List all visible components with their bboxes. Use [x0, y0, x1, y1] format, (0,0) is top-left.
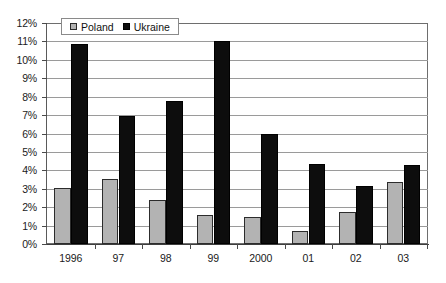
y-axis-tick-label: 2%	[22, 201, 37, 213]
x-axis-tick-mark	[332, 244, 333, 249]
x-axis-label-01: 01	[303, 252, 314, 264]
bar-ukraine-98	[166, 101, 183, 244]
x-axis-label-03: 03	[398, 252, 409, 264]
y-axis-tick-label: 0%	[22, 238, 37, 250]
bar-ukraine-97	[119, 116, 136, 244]
bar-ukraine-99	[214, 41, 231, 244]
bar-poland-97	[102, 179, 119, 244]
bar-group	[332, 24, 380, 244]
bar-group	[285, 24, 333, 244]
bar-ukraine-1996	[71, 44, 88, 244]
x-axis-tick-mark	[237, 244, 238, 249]
x-axis-tick-mark	[285, 244, 286, 249]
y-axis-tick-label: 1%	[22, 220, 37, 232]
y-axis-tick-label: 9%	[22, 72, 37, 84]
y-axis-tick-label: 8%	[22, 91, 37, 103]
x-axis-label-98: 98	[160, 252, 171, 264]
legend-item-ukraine: Ukraine	[123, 21, 170, 33]
y-axis-tick-label: 6%	[22, 128, 37, 140]
y-axis-tick-label: 7%	[22, 109, 37, 121]
legend-label-poland: Poland	[81, 21, 114, 33]
bar-group	[190, 24, 238, 244]
x-axis-tick-mark	[95, 244, 96, 249]
y-axis-tick-label: 12%	[17, 17, 37, 29]
x-axis-tick-mark	[142, 244, 143, 249]
bar-poland-02	[339, 212, 356, 244]
y-axis-tick-label: 5%	[22, 146, 37, 158]
bar-chart: 0%1%2%3%4%5%6%7%8%9%10%11%12% 1996979899…	[0, 0, 446, 283]
bar-group	[380, 24, 428, 244]
chart-legend: Poland Ukraine	[61, 18, 179, 35]
bars-layer	[47, 24, 427, 244]
bar-poland-01	[292, 231, 309, 244]
x-axis-tick-mark	[427, 244, 428, 249]
bar-ukraine-2000	[261, 134, 278, 244]
legend-label-ukraine: Ukraine	[134, 21, 170, 33]
y-axis-ticks: 0%1%2%3%4%5%6%7%8%9%10%11%12%	[0, 0, 46, 283]
x-axis-label-99: 99	[208, 252, 219, 264]
bar-group	[47, 24, 95, 244]
bar-group	[142, 24, 190, 244]
bar-poland-99	[197, 215, 214, 244]
y-axis-tick-label: 11%	[17, 35, 37, 47]
x-axis-label-02: 02	[350, 252, 361, 264]
bar-group	[237, 24, 285, 244]
bar-poland-03	[387, 182, 404, 244]
bar-poland-98	[149, 200, 166, 244]
y-axis-tick-label: 10%	[17, 54, 37, 66]
y-axis-tick-label: 3%	[22, 183, 37, 195]
x-axis-label-1996: 1996	[59, 252, 82, 264]
y-axis-tick-label: 4%	[22, 164, 37, 176]
y-axis-tick-mark	[42, 244, 47, 245]
x-axis-label-2000: 2000	[249, 252, 272, 264]
x-axis-label-97: 97	[113, 252, 124, 264]
x-axis-tick-mark	[190, 244, 191, 249]
bar-group	[95, 24, 143, 244]
bar-ukraine-02	[356, 186, 373, 244]
bar-poland-1996	[54, 188, 71, 244]
bar-ukraine-01	[309, 164, 326, 244]
legend-swatch-poland	[70, 23, 77, 30]
legend-item-poland: Poland	[70, 21, 114, 33]
bar-poland-2000	[244, 217, 261, 244]
x-axis-tick-mark	[380, 244, 381, 249]
legend-swatch-ukraine	[123, 23, 130, 30]
bar-ukraine-03	[404, 165, 421, 244]
